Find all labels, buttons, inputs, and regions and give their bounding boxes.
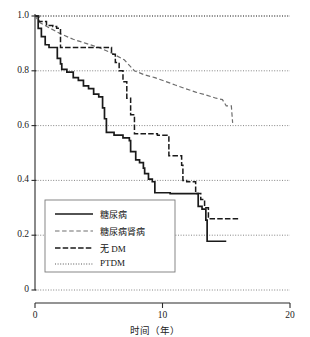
legend-label-1: 糖尿病肾病 xyxy=(100,225,145,238)
legend-label-2: 无 DM xyxy=(100,242,126,255)
x-tick-label: 10 xyxy=(143,310,183,320)
series-line-2 xyxy=(35,16,239,219)
y-tick-label: 0.4 xyxy=(0,174,29,184)
x-axis-label: 时间（年） xyxy=(0,323,310,337)
x-tick-label: 0 xyxy=(15,310,55,320)
x-tick-label: 20 xyxy=(270,310,310,320)
y-tick-label: 0.6 xyxy=(0,120,29,130)
legend-label-0: 糖尿病 xyxy=(100,208,127,221)
y-tick-label: 1.0 xyxy=(0,10,29,20)
y-tick-label: 0.8 xyxy=(0,65,29,75)
y-tick-label: 0.2 xyxy=(0,229,29,239)
y-tick-label: 0 xyxy=(0,284,29,294)
legend-label-3: PTDM xyxy=(100,258,125,268)
